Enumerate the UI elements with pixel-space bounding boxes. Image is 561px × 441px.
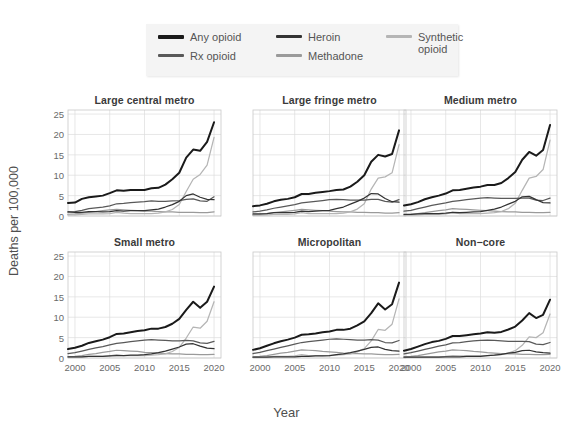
- legend-item-label: Any opioid: [190, 31, 241, 43]
- x-tick-label: 2015: [169, 362, 190, 373]
- panel-small-metro: Small metro05101520252000200520102015202…: [68, 236, 221, 358]
- y-axis-title-text: Deaths per 100,000: [7, 166, 21, 276]
- x-tick-label: 2000: [64, 362, 85, 373]
- grid-lines: [404, 252, 557, 358]
- legend-item-heroin[interactable]: Heroin: [276, 31, 386, 43]
- series-line-any-opioid: [253, 130, 399, 206]
- panel-title: Non−core: [404, 236, 557, 248]
- series-line-synthetic-opioid: [404, 140, 550, 215]
- panel-non-core: Non−core20002005201020152020: [404, 236, 557, 358]
- panel-medium-metro: Medium metro: [404, 94, 557, 216]
- y-tick-label: 5: [59, 332, 64, 343]
- y-tick-label: 25: [53, 109, 64, 120]
- series-line-heroin: [253, 194, 399, 214]
- y-tick-label: 10: [53, 170, 64, 181]
- x-tick-label: 2000: [400, 362, 421, 373]
- legend-swatch-icon: [158, 54, 184, 57]
- y-tick-label: 20: [53, 271, 64, 282]
- plot-area: [253, 110, 406, 216]
- plot-area: 0510152025: [68, 110, 221, 216]
- x-tick-label: 2005: [435, 362, 456, 373]
- x-tick-label: 2010: [319, 362, 340, 373]
- y-tick-label: 20: [53, 129, 64, 140]
- legend-swatch-icon: [276, 35, 302, 38]
- legend-item-synthetic-opioid[interactable]: Synthetic opioid: [386, 31, 463, 55]
- series-line-synthetic-opioid: [68, 137, 214, 214]
- plot-area: [404, 110, 557, 216]
- y-tick-label: 0: [59, 211, 64, 222]
- series-line-any-opioid: [404, 300, 550, 351]
- x-axis-title: Year: [34, 405, 539, 420]
- x-tick-label: 2015: [505, 362, 526, 373]
- x-tick-label: 2010: [134, 362, 155, 373]
- legend-item-label: Methadone: [308, 50, 363, 62]
- chart-legend: Any opioidHeroinSynthetic opioidRx opioi…: [146, 24, 458, 76]
- legend-item-label: Heroin: [308, 31, 340, 43]
- y-tick-label: 15: [53, 291, 64, 302]
- legend-swatch-icon: [158, 35, 184, 39]
- y-tick-label: 15: [53, 149, 64, 160]
- y-tick-label: 25: [53, 251, 64, 262]
- plot-area: 051015202520002005201020152020: [68, 252, 221, 358]
- y-tick-label: 10: [53, 312, 64, 323]
- x-tick-label: 2015: [354, 362, 375, 373]
- legend-item-rx-opioid[interactable]: Rx opioid: [158, 50, 276, 62]
- legend-swatch-icon: [386, 35, 412, 38]
- legend-swatch-icon: [276, 54, 302, 57]
- legend-item-methadone[interactable]: Methadone: [276, 50, 386, 62]
- legend-item-label: Synthetic opioid: [418, 31, 463, 55]
- plot-area: 20002005201020152020: [404, 252, 557, 358]
- legend-item-label: Rx opioid: [190, 50, 236, 62]
- panel-title: Large fringe metro: [253, 94, 406, 106]
- panel-title: Micropolitan: [253, 236, 406, 248]
- series-line-rx-opioid: [68, 197, 214, 212]
- plot-area: 20002005201020152020: [253, 252, 406, 358]
- series-line-any-opioid: [68, 287, 214, 349]
- panel-title: Large central metro: [68, 94, 221, 106]
- x-tick-label: 2005: [99, 362, 120, 373]
- x-tick-label: 2020: [539, 362, 560, 373]
- x-tick-label: 2000: [249, 362, 270, 373]
- panel-title: Medium metro: [404, 94, 557, 106]
- y-tick-label: 0: [59, 353, 64, 364]
- panel-title: Small metro: [68, 236, 221, 248]
- panel-large-fringe-metro: Large fringe metro: [253, 94, 406, 216]
- panel-large-central-metro: Large central metro0510152025: [68, 94, 221, 216]
- x-tick-label: 2005: [284, 362, 305, 373]
- x-tick-label: 2020: [203, 362, 224, 373]
- y-axis-title: Deaths per 100,000: [2, 0, 26, 441]
- panel-micropolitan: Micropolitan20002005201020152020: [253, 236, 406, 358]
- x-tick-label: 2010: [470, 362, 491, 373]
- legend-item-any-opioid[interactable]: Any opioid: [158, 31, 276, 43]
- y-tick-label: 5: [59, 190, 64, 201]
- series-line-any-opioid: [404, 125, 550, 205]
